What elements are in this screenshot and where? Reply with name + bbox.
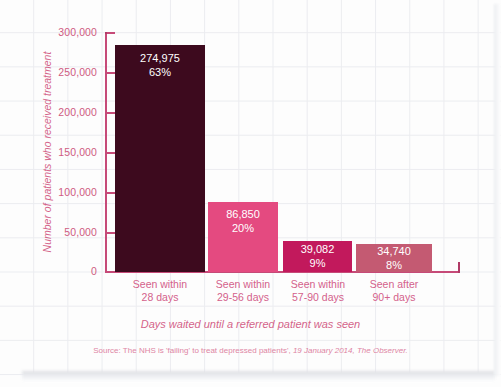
bar-value-label: 274,975 (115, 52, 205, 66)
y-tick-mark (107, 112, 115, 114)
bar-seen-within-57-90-days[interactable]: 39,082 9% (283, 241, 352, 272)
bar-percent-label: 63% (115, 66, 205, 80)
y-axis-title: Number of patients who received treatmen… (41, 36, 53, 268)
y-tick-mark (107, 152, 115, 154)
bar-percent-label: 8% (356, 259, 432, 273)
chart-card: 300,000 250,000 200,000 150,000 100,000 … (0, 0, 501, 387)
y-tick-mark (107, 72, 115, 74)
x-axis-title: Days waited until a referred patient was… (0, 318, 501, 330)
bar-seen-within-29-56-days[interactable]: 86,850 20% (208, 202, 278, 272)
bar-percent-label: 20% (208, 222, 278, 236)
bar-value-label: 86,850 (208, 208, 278, 222)
bar-value-label: 39,082 (283, 243, 352, 257)
y-tick-mark (107, 232, 115, 234)
x-category-label-3-line2: 90+ days (344, 291, 444, 304)
x-axis-right-cap (458, 262, 460, 273)
plot-area: 300,000 250,000 200,000 150,000 100,000 … (0, 0, 501, 387)
source-note: Source: The NHS is 'failing' to treat de… (0, 346, 501, 355)
x-category-label-3-line1: Seen after (344, 278, 444, 291)
y-tick-mark (107, 192, 115, 194)
x-category-label-3: Seen after 90+ days (344, 278, 444, 304)
bar-percent-label: 9% (283, 257, 352, 271)
source-note-emphasis: 19 January 2014, The Observer. (293, 346, 408, 355)
bar-value-label: 34,740 (356, 245, 432, 259)
bar-seen-within-28-days[interactable]: 274,975 63% (115, 45, 205, 272)
source-note-prefix: Source: The NHS is 'failing' to treat de… (93, 346, 290, 355)
y-tick-mark (107, 32, 115, 34)
bar-seen-after-90-plus-days[interactable]: 34,740 8% (356, 244, 432, 272)
